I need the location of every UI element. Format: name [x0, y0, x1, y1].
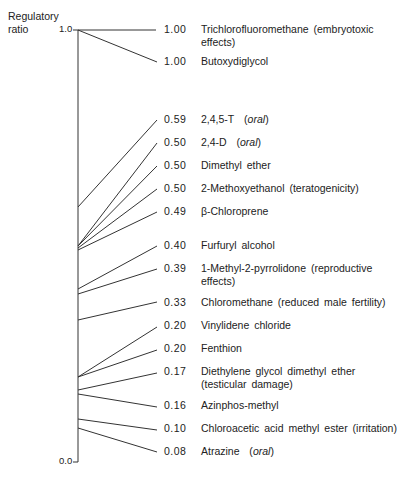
ratio-value: 0.40 — [164, 239, 186, 252]
ratio-value: 0.50 — [164, 182, 186, 195]
substance-name: 2-Methoxyethanol (teratogenicity) — [201, 182, 401, 195]
ratio-value: 1.00 — [164, 55, 186, 68]
ratio-value: 0.20 — [164, 319, 186, 332]
substance-name-text: 2,4-D — [201, 136, 227, 148]
substance-name: Fenthion — [201, 342, 401, 355]
substance-name: Azinphos-methyl — [201, 399, 401, 412]
ratio-value: 0.17 — [164, 365, 186, 378]
ratio-value: 0.20 — [164, 342, 186, 355]
ratio-value: 0.49 — [164, 205, 186, 218]
y-axis-bottom-tick-label: 0.0 — [59, 455, 72, 466]
ratio-value: 0.33 — [164, 296, 186, 309]
substance-name: Atrazine (oral) — [201, 445, 401, 458]
substance-name: 2,4-D (oral) — [201, 136, 401, 149]
y-axis-title: Regulatory ratio — [8, 10, 59, 36]
substance-name: Vinylidene chloride — [201, 319, 401, 332]
ratio-value: 0.10 — [164, 422, 186, 435]
ratio-value: 0.50 — [164, 159, 186, 172]
y-axis-title-line2: ratio — [8, 23, 59, 36]
substance-name: 1-Methyl-2-pyrrolidone (reproductive eff… — [201, 262, 401, 288]
substance-name: Furfuryl alcohol — [201, 239, 401, 252]
ratio-value: 0.50 — [164, 136, 186, 149]
substance-note: oral — [253, 445, 271, 457]
substance-note: oral — [240, 136, 258, 148]
substance-name: Butoxydiglycol — [201, 55, 401, 68]
ratio-value: 0.08 — [164, 445, 186, 458]
y-axis-title-line1: Regulatory — [8, 10, 59, 23]
y-axis-top-tick-label: 1.0 — [59, 23, 72, 34]
substance-name: Diethylene glycol dimethyl ether (testic… — [201, 365, 401, 391]
ratio-value: 0.16 — [164, 399, 186, 412]
substance-name: Dimethyl ether — [201, 159, 401, 172]
ratio-value: 0.59 — [164, 113, 186, 126]
ratio-value: 0.39 — [164, 262, 186, 275]
substance-name: Chloromethane (reduced male fertility) — [201, 296, 401, 309]
substance-name-text: Atrazine — [201, 445, 240, 457]
substance-name: Trichlorofluoromethane (embryotoxic effe… — [201, 23, 401, 49]
substance-name: β-Chloroprene — [201, 205, 401, 218]
substance-note: oral — [248, 113, 266, 125]
substance-name: 2,4,5-T (oral) — [201, 113, 401, 126]
substance-name: Chloroacetic acid methyl ester (irritati… — [201, 422, 401, 435]
substance-name-text: 2,4,5-T — [201, 113, 234, 125]
ratio-value: 1.00 — [164, 23, 186, 36]
